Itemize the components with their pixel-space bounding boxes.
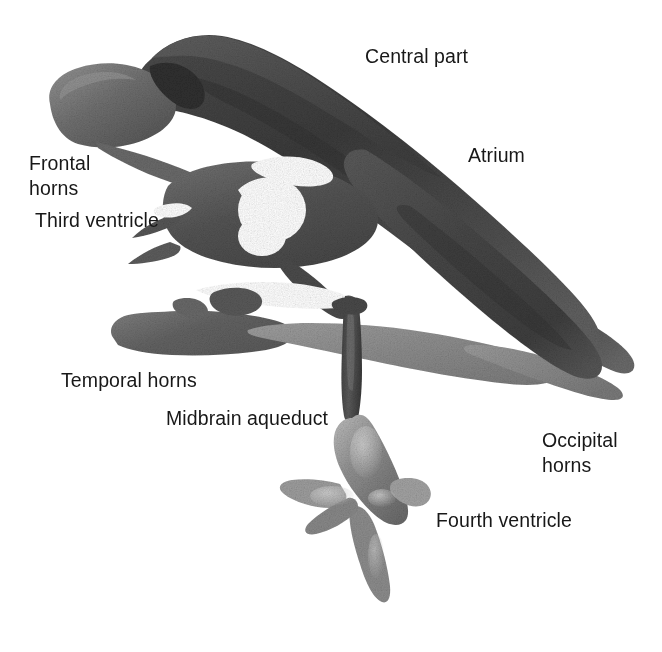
label-midbrain-aqueduct: Midbrain aqueduct [166,406,328,431]
label-atrium: Atrium [468,143,525,168]
label-frontal-horns: Frontal horns [29,151,90,201]
fourth-ventricle-shape [280,415,431,603]
label-third-ventricle: Third ventricle [35,208,159,233]
inferior-recess-shape [210,288,263,316]
ventricular-system-figure: Central part Atrium Frontal horns Third … [0,0,662,652]
midbrain-aqueduct-shape [341,295,362,424]
label-fourth-ventricle: Fourth ventricle [436,508,572,533]
anatomy-illustration [0,0,662,652]
label-temporal-horns: Temporal horns [61,368,197,393]
label-central-part: Central part [365,44,468,69]
label-occipital-horns: Occipital horns [542,428,618,478]
